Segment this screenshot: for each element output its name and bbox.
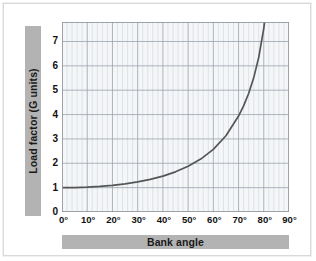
x-tick-label: 40° <box>157 215 171 225</box>
x-tick-label: 20° <box>106 215 120 225</box>
y-axis-title-bar: Load factor (G units) <box>25 26 41 216</box>
x-tick-label: 60° <box>207 215 221 225</box>
y-tick-label: 4 <box>44 110 58 120</box>
y-tick-label: 2 <box>44 158 58 168</box>
x-tick-label: 70° <box>232 215 246 225</box>
x-tick-label: 80° <box>258 215 272 225</box>
x-tick-label: 30° <box>132 215 146 225</box>
x-tick-label: 0° <box>59 215 68 225</box>
y-tick-label: 1 <box>44 183 58 193</box>
y-tick-label: 3 <box>44 134 58 144</box>
x-tick-label: 50° <box>182 215 196 225</box>
y-tick-label: 5 <box>44 85 58 95</box>
x-tick-label: 90° <box>282 215 296 225</box>
y-tick-label: 6 <box>44 61 58 71</box>
plot-area <box>62 22 289 212</box>
chart-plot-svg <box>62 22 289 212</box>
y-axis-title: Load factor (G units) <box>27 68 39 173</box>
plot-background <box>62 22 289 212</box>
y-tick-label: 0 <box>44 207 58 217</box>
x-axis-title-bar: Bank angle <box>62 235 289 249</box>
x-tick-label: 10° <box>81 215 95 225</box>
x-axis-title: Bank angle <box>147 236 204 248</box>
figure-card: Load factor (G units) 0 1 2 3 4 5 6 7 <box>3 3 311 256</box>
y-tick-label: 7 <box>44 36 58 46</box>
chart-screenshot: Load factor (G units) 0 1 2 3 4 5 6 7 <box>0 0 316 261</box>
